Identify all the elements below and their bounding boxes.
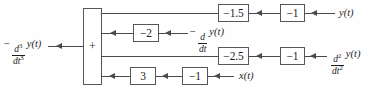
row-3-wire-mid xyxy=(249,56,280,57)
row-2-sign: − xyxy=(190,26,196,37)
gain-label-r2-inner: −2 xyxy=(140,27,152,39)
output-sign: − xyxy=(4,38,10,49)
gain-label-r1-outer: −1 xyxy=(286,7,298,19)
gain-box-r3-outer: −1 xyxy=(280,47,305,65)
row-3-wire-input xyxy=(305,56,327,57)
summing-junction: + xyxy=(83,8,102,85)
gain-label-r1-inner: −1.5 xyxy=(223,7,243,19)
gain-box-r1-outer: −1 xyxy=(280,4,305,22)
gain-label-r4-outer: −1 xyxy=(189,70,201,82)
row-1-wire-mid xyxy=(249,13,280,14)
gain-box-r3-inner: −2.5 xyxy=(218,47,249,65)
row-2-arrowhead-sum xyxy=(110,30,116,36)
row-2-wire-to-sum xyxy=(101,33,133,34)
plus-sign: + xyxy=(89,39,96,54)
row-4-wire-to-sum xyxy=(101,76,130,77)
row-3-arg: (t) xyxy=(350,48,360,59)
output-arg: (t) xyxy=(31,38,41,49)
row-3-arrowhead-mid xyxy=(256,53,262,59)
row-2-arrowhead-input xyxy=(165,30,171,36)
row-4-wire-mid xyxy=(156,76,182,77)
row-1-arrowhead-input xyxy=(311,10,317,16)
row-4-input-label: x(t) xyxy=(238,70,254,81)
row-2-fraction: ddt xyxy=(198,33,207,54)
row-1-wire-to-sum xyxy=(101,13,218,14)
row-4-input-arg: (t) xyxy=(244,70,254,81)
output-denominator: dt3 xyxy=(12,57,25,67)
output-label: −d3dt3y(t) xyxy=(4,38,41,66)
row-3-fraction: d2dt2 xyxy=(331,55,344,76)
output-wire xyxy=(48,46,83,47)
row-2-denominator: dt xyxy=(198,45,207,55)
row-3-denominator: dt2 xyxy=(331,67,344,77)
row-4-arrowhead-mid xyxy=(162,73,168,79)
gain-box-r1-inner: −1.5 xyxy=(218,4,249,22)
row-3-wire-to-sum xyxy=(101,56,218,57)
row-1-input-label: y(t) xyxy=(338,7,354,18)
gain-box-r4-outer: −1 xyxy=(182,67,208,85)
row-4-arrowhead-sum xyxy=(109,73,115,79)
row-3-arrowhead-input xyxy=(310,53,316,59)
output-fraction: d3dt3 xyxy=(12,45,25,66)
block-diagram: + −d3dt3y(t) −1.5 −1 y(t) −2 −ddty(t) −2… xyxy=(0,0,371,94)
gain-box-r4-inner: 3 xyxy=(130,67,156,85)
output-arrowhead xyxy=(56,43,62,49)
row-1-arrowhead-mid xyxy=(256,10,262,16)
gain-box-r2-inner: −2 xyxy=(133,24,159,42)
gain-label-r3-inner: −2.5 xyxy=(223,50,243,62)
row-1-wire-input xyxy=(305,13,335,14)
row-1-input-arg: (t) xyxy=(344,7,354,18)
row-3-input-label: d2dt2y(t) xyxy=(330,48,360,76)
row-2-numerator: d xyxy=(199,33,206,43)
row-2-wire-input xyxy=(159,33,188,34)
row-4-wire-input xyxy=(208,76,234,77)
row-4-arrowhead-input xyxy=(214,73,220,79)
row-2-arg: (t) xyxy=(214,26,224,37)
gain-label-r3-outer: −1 xyxy=(286,50,298,62)
gain-label-r4-inner: 3 xyxy=(140,70,146,82)
